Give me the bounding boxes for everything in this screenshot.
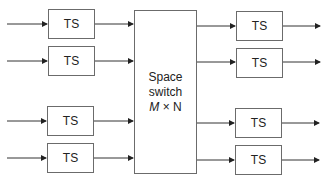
right-ts-block-3: TS [235, 108, 282, 138]
switch-label-line2: switch [149, 85, 182, 100]
block-label: TS [251, 153, 266, 167]
right-ts-block-4: TS [235, 145, 282, 175]
block-label: TS [63, 151, 78, 165]
right-ts-block-1: TS [236, 11, 283, 41]
block-label: TS [251, 116, 266, 130]
block-label: TS [252, 19, 267, 33]
switch-label-line1: Space [148, 70, 182, 85]
space-switch-block: Space switch M × N [134, 10, 197, 174]
block-label: TS [63, 114, 78, 128]
switch-dimensions: M × N [149, 100, 181, 115]
right-ts-block-2: TS [236, 48, 283, 78]
block-label: TS [64, 54, 79, 68]
left-ts-block-1: TS [48, 9, 95, 39]
block-label: TS [252, 56, 267, 70]
left-ts-block-2: TS [48, 46, 95, 76]
left-ts-block-4: TS [47, 143, 94, 173]
block-label: TS [64, 17, 79, 31]
left-ts-block-3: TS [47, 106, 94, 136]
